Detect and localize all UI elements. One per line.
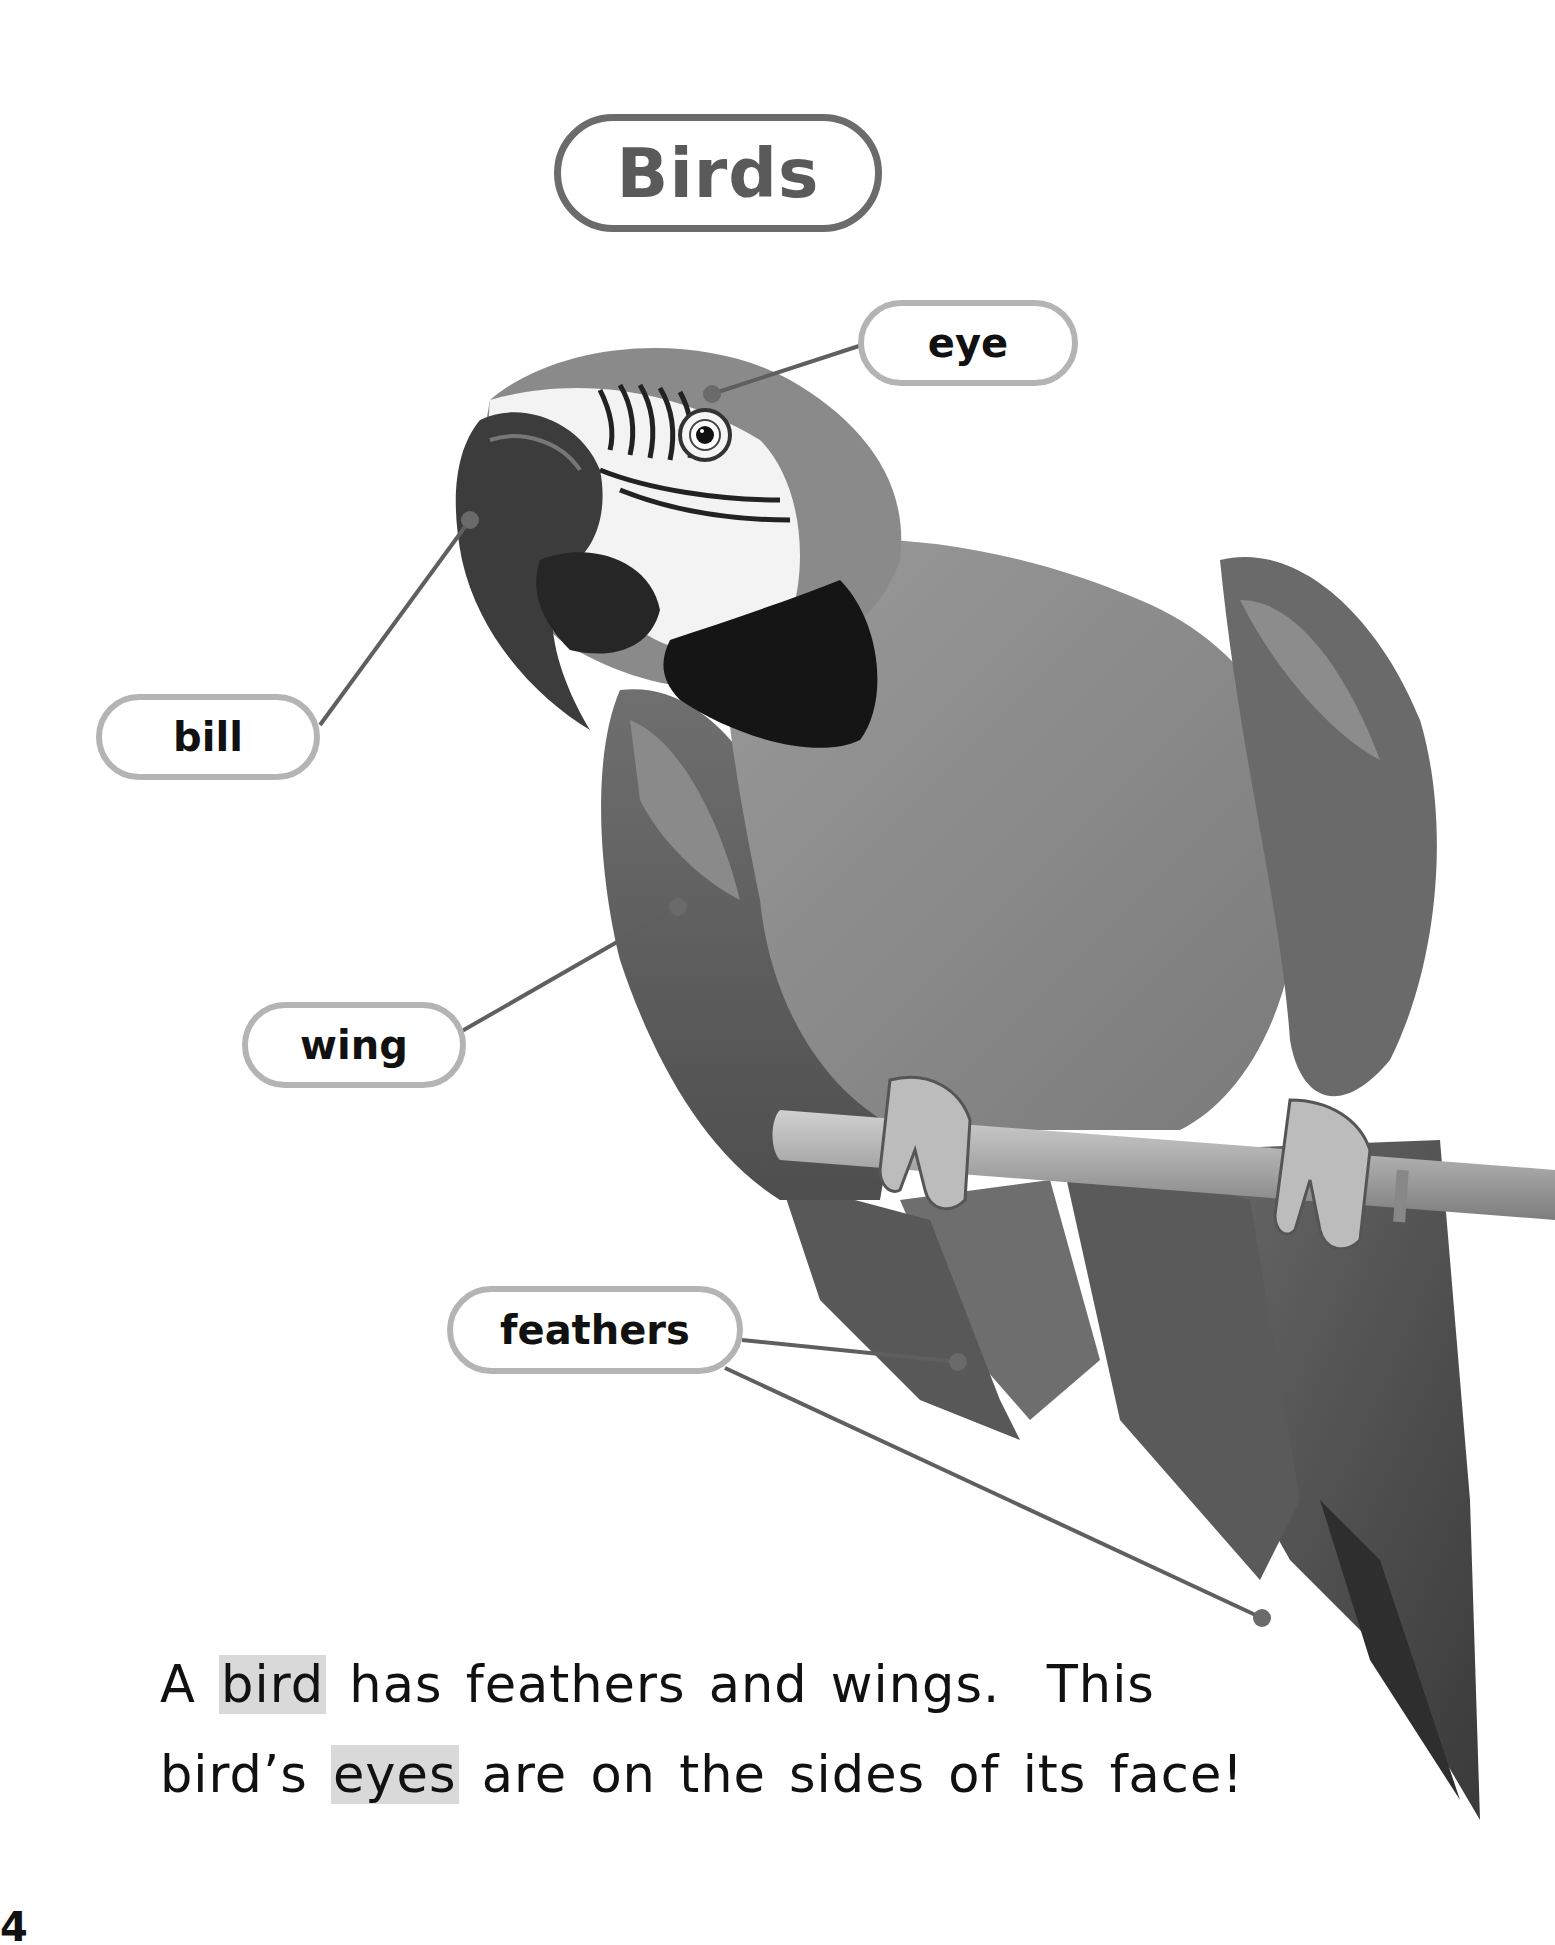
label-wing: wing [242,1002,466,1088]
label-eye-text: eye [928,320,1008,366]
parrot-eye [680,410,730,460]
label-bill: bill [96,694,320,780]
highlighted-word-bird: bird [219,1655,326,1714]
label-bill-text: bill [173,714,243,760]
text-segment: A [160,1655,219,1714]
label-feathers: feathers [447,1286,743,1374]
text-segment: has feathers and wings. This [326,1655,1155,1714]
highlighted-word-eyes: eyes [331,1745,459,1804]
body-text: A bird has feathers and wings. This bird… [160,1640,1260,1820]
body-line-2: bird’s eyes are on the sides of its face… [160,1730,1260,1820]
label-wing-text: wing [300,1022,408,1068]
text-segment: are on the sides of its face! [459,1745,1244,1804]
text-segment: bird’s [160,1745,331,1804]
label-eye: eye [858,300,1078,386]
body-line-1: A bird has feathers and wings. This [160,1640,1260,1730]
label-feathers-text: feathers [500,1307,690,1353]
